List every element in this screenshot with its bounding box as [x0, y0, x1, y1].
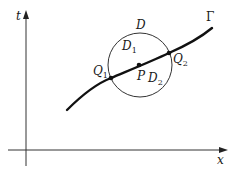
point-P-label: P	[137, 70, 145, 82]
point-Q1	[109, 76, 114, 81]
disk-D-label: D	[136, 19, 146, 31]
diagram-canvas	[0, 0, 235, 179]
y-axis-label: t	[16, 10, 21, 22]
region-D2-label: D2	[148, 72, 163, 87]
y-axis-arrow-icon	[23, 10, 29, 19]
point-Q1-label: Q1	[93, 65, 108, 80]
region-D1-label: D1	[122, 40, 137, 55]
point-Q2-label: Q2	[173, 53, 188, 68]
point-Q2	[167, 51, 172, 56]
curve-gamma-label: Γ	[206, 11, 214, 23]
diagram-figure: t x Γ D D1 D2 Q1 Q2 P	[0, 0, 235, 179]
point-P	[137, 63, 142, 68]
x-axis-label: x	[217, 154, 224, 166]
